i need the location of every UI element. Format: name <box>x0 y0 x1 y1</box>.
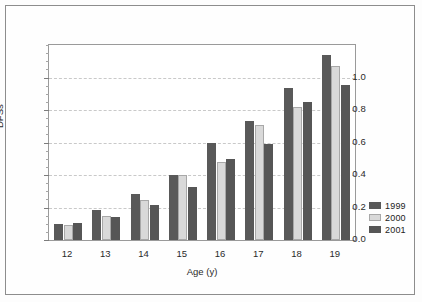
bar <box>92 210 101 240</box>
bars-layer <box>49 45 355 240</box>
y-axis-tick-label: 0.0 <box>352 233 366 244</box>
legend-label: 1999 <box>385 201 406 211</box>
chart-page: 0.00.20.40.60.81.0 1213141516171819 DFSs… <box>0 0 422 302</box>
y-axis-minor-tick <box>46 61 49 62</box>
y-axis-minor-tick <box>46 159 49 160</box>
bar <box>150 205 159 240</box>
y-axis-minor-tick <box>46 216 49 217</box>
y-axis-minor-tick <box>46 86 49 87</box>
y-axis-tick-label: 0.6 <box>352 136 366 147</box>
plot-inner <box>49 45 355 240</box>
y-axis-minor-tick <box>46 199 49 200</box>
bar <box>341 85 350 240</box>
y-axis-tick <box>44 240 49 241</box>
y-axis-minor-tick <box>46 151 49 152</box>
y-axis-minor-tick <box>46 232 49 233</box>
bar-group <box>245 45 273 240</box>
x-axis-tick-label: 12 <box>52 248 82 259</box>
bar <box>131 194 140 240</box>
bar-group <box>322 45 350 240</box>
bar <box>217 162 226 240</box>
y-axis-minor-tick <box>46 53 49 54</box>
legend-item[interactable]: 2001 <box>369 224 417 235</box>
bar <box>207 143 216 241</box>
y-axis-tick <box>44 208 49 209</box>
y-axis-tick-label: 0.4 <box>352 168 366 179</box>
bar <box>322 55 331 240</box>
bar <box>140 200 149 240</box>
y-axis-minor-tick <box>46 191 49 192</box>
x-axis-tick-label: 19 <box>320 248 350 259</box>
legend-item[interactable]: 1999 <box>369 200 417 211</box>
y-axis-tick-label: 0.2 <box>352 201 366 212</box>
bar-group <box>169 45 197 240</box>
y-axis-tick-label: 1.0 <box>352 71 366 82</box>
bar <box>64 225 73 240</box>
x-axis-tick-label: 18 <box>282 248 312 259</box>
y-axis-minor-tick <box>46 167 49 168</box>
legend-label: 2001 <box>385 225 406 235</box>
x-axis-title: Age (y) <box>48 266 356 277</box>
bar-group <box>92 45 120 240</box>
bar <box>226 159 235 240</box>
y-axis-tick <box>44 78 49 79</box>
bar-group <box>284 45 312 240</box>
x-axis-tick-label: 14 <box>129 248 159 259</box>
x-axis-tick-label: 15 <box>167 248 197 259</box>
bar <box>245 121 254 240</box>
legend-label: 2000 <box>385 213 406 223</box>
bar <box>331 66 340 240</box>
y-axis-minor-tick <box>46 126 49 127</box>
y-axis-minor-tick <box>46 118 49 119</box>
y-axis-minor-tick <box>46 183 49 184</box>
bar <box>188 187 197 240</box>
y-axis-tick <box>44 110 49 111</box>
bar <box>303 102 312 240</box>
bar <box>73 223 82 240</box>
y-axis-tick <box>44 175 49 176</box>
y-axis-tick-label: 0.8 <box>352 103 366 114</box>
legend-swatch-icon <box>369 202 381 209</box>
x-axis-tick-label: 17 <box>243 248 273 259</box>
bar-group <box>54 45 82 240</box>
y-axis-minor-tick <box>46 69 49 70</box>
bar <box>111 217 120 240</box>
chart-legend: 199920002001 <box>369 200 417 236</box>
x-axis-tick-label: 16 <box>205 248 235 259</box>
plot-area <box>48 44 356 241</box>
y-axis-title: DFSs <box>0 104 5 128</box>
bar <box>255 125 264 240</box>
legend-item[interactable]: 2000 <box>369 212 417 223</box>
bar <box>178 175 187 240</box>
bar <box>54 224 63 240</box>
legend-swatch-icon <box>369 226 381 233</box>
bar-group <box>207 45 235 240</box>
legend-swatch-icon <box>369 214 381 221</box>
y-axis-tick <box>44 143 49 144</box>
bar <box>284 88 293 240</box>
bar-chart-figure: 0.00.20.40.60.81.0 1213141516171819 DFSs… <box>0 0 422 302</box>
bar-group <box>131 45 159 240</box>
y-axis-minor-tick <box>46 94 49 95</box>
bar <box>264 144 273 240</box>
y-axis-minor-tick <box>46 45 49 46</box>
bar <box>293 107 302 240</box>
y-axis-minor-tick <box>46 102 49 103</box>
bar <box>102 216 111 240</box>
y-axis-minor-tick <box>46 134 49 135</box>
bar <box>169 175 178 240</box>
y-axis-minor-tick <box>46 224 49 225</box>
x-axis-tick-label: 13 <box>90 248 120 259</box>
